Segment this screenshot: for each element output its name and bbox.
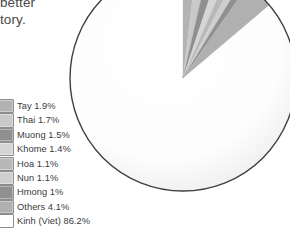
document-text-line: tory.: [0, 11, 72, 28]
document-text-line: better: [0, 0, 72, 11]
legend-swatch: [0, 128, 14, 142]
legend-item: Tay 1.9%: [0, 99, 122, 113]
legend-item: Kinh (Viet) 86.2%: [0, 214, 122, 228]
legend-label: Kinh (Viet) 86.2%: [14, 214, 90, 228]
pie-slice-nun: [183, 0, 242, 78]
legend-label: Thai 1.7%: [14, 113, 59, 127]
legend-label: Others 4.1%: [14, 200, 69, 214]
pie-slice-others: [183, 0, 269, 78]
pie-slice-hmong: [183, 0, 248, 78]
legend-item: Khome 1.4%: [0, 142, 122, 156]
legend-swatch: [0, 142, 14, 156]
legend-swatch: [0, 113, 14, 127]
legend-item: Thai 1.7%: [0, 113, 122, 127]
legend-swatch: [0, 214, 14, 228]
legend-item: Muong 1.5%: [0, 128, 122, 142]
legend-item: Others 4.1%: [0, 200, 122, 214]
legend-swatch: [0, 157, 14, 171]
legend-item: Hoa 1.1%: [0, 157, 122, 171]
document-text-excerpt: better tory.: [0, 0, 72, 28]
legend-label: Khome 1.4%: [14, 142, 71, 156]
pie-slice-muong: [183, 0, 219, 78]
pie-slice-tay: [183, 0, 196, 78]
legend-label: Hmong 1%: [14, 185, 63, 199]
legend-item: Nun 1.1%: [0, 171, 122, 185]
legend-label: Nun 1.1%: [14, 171, 58, 185]
legend-swatch: [0, 171, 14, 185]
legend-label: Muong 1.5%: [14, 128, 70, 142]
pie-slice-khome: [183, 0, 228, 78]
pie-slice-hoa: [183, 0, 235, 78]
legend-item: Hmong 1%: [0, 185, 122, 199]
pie-slice-thai: [183, 0, 208, 78]
legend-label: Hoa 1.1%: [14, 157, 58, 171]
legend-swatch: [0, 99, 14, 113]
legend-swatch: [0, 185, 14, 199]
legend-swatch: [0, 200, 14, 214]
legend-label: Tay 1.9%: [14, 99, 56, 113]
chart-legend: Tay 1.9%Thai 1.7%Muong 1.5%Khome 1.4%Hoa…: [0, 99, 122, 229]
